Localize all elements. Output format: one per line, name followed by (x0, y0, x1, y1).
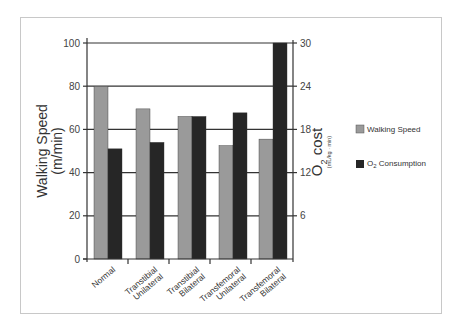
left-axis-title-line2: (m/min) (49, 127, 65, 174)
svg-text:O2 Consumption: O2 Consumption (367, 159, 426, 169)
bars (94, 43, 287, 259)
bar-o2-consumption (150, 142, 164, 259)
right-tick-label: 30 (300, 38, 312, 49)
bar-o2-consumption (273, 43, 287, 259)
bar-chart: 020406080100612182430 NormalTranstibialU… (0, 0, 461, 332)
right-tick-label: 24 (300, 81, 312, 92)
bar-walking-speed (219, 146, 233, 259)
right-axis-title-rest: cost (308, 127, 325, 160)
left-tick-label: 60 (69, 124, 81, 135)
bar-walking-speed (259, 139, 273, 259)
legend-swatch-o2-consumption (356, 160, 364, 168)
legend-label-walking-speed: Walking Speed (367, 125, 421, 134)
left-axis-title-line1: Walking Speed (34, 104, 50, 198)
category-label: TranstibialUnilateral (123, 264, 165, 304)
bar-o2-consumption (108, 149, 122, 259)
left-tick-label: 40 (69, 167, 81, 178)
legend-item-walking-speed: Walking Speed (356, 125, 421, 134)
legend: Walking Speed O2 Consumption (356, 125, 426, 169)
right-axis-title-o: O (308, 165, 325, 177)
bar-walking-speed (94, 86, 108, 259)
bar-o2-consumption (192, 116, 206, 259)
bar-walking-speed (178, 116, 192, 259)
right-tick-label: 6 (300, 210, 306, 221)
left-axis-title: Walking Speed (m/min) (34, 104, 65, 198)
bar-walking-speed (136, 109, 150, 259)
category-labels: NormalTranstibialUnilateralTranstibialBi… (90, 264, 288, 311)
category-label: Normal (90, 264, 117, 289)
bar-o2-consumption (233, 113, 247, 259)
legend-swatch-walking-speed (356, 125, 364, 133)
legend-item-o2-consumption: O2 Consumption (356, 159, 426, 169)
left-tick-label: 80 (69, 81, 81, 92)
right-axis-units: (mL/kg · min) (326, 136, 332, 169)
category-label: TransfemoralBilateral (238, 264, 288, 311)
left-tick-label: 20 (69, 210, 81, 221)
left-tick-label: 100 (63, 38, 80, 49)
left-tick-label: 0 (74, 254, 80, 265)
right-axis-title: O2 cost (mL/kg · min) (308, 127, 332, 176)
category-label: TransfemoralUnilateral (198, 264, 248, 311)
category-label-line: Normal (90, 264, 117, 289)
legend-label-rest: Consumption (377, 159, 426, 168)
